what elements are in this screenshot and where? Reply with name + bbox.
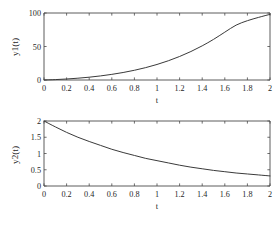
x-tick-label-top-3: 0.6 xyxy=(107,84,117,93)
x-tick-marks-bottom xyxy=(44,121,270,186)
x-tick-label-bot-1: 0.2 xyxy=(61,190,71,199)
x-tick-label-bot-0: 0 xyxy=(42,190,46,199)
x-axis-title-bottom: t xyxy=(156,202,159,211)
y-tick-label-top-2: 100 xyxy=(29,9,41,18)
y-axis-title-top: y1(t) xyxy=(10,38,20,56)
y-tick-label-bot-2: 1 xyxy=(37,150,41,159)
y-axis-title-bottom: y2(t) xyxy=(10,146,20,164)
data-curve-y2 xyxy=(44,121,270,176)
figure-container: 0 50 100 0 0.2 0.4 0.6 0.8 1 1.2 1.4 1.6… xyxy=(0,0,280,226)
x-tick-label-top-9: 1.8 xyxy=(242,84,252,93)
x-axis-title-top: t xyxy=(156,96,159,105)
x-tick-label-top-1: 0.2 xyxy=(61,84,71,93)
y-tick-label-bot-1: 0.5 xyxy=(31,166,41,175)
chart-panel-bottom: 0 0.5 1 1.5 2 0 0.2 0.4 0.6 0.8 1 1.2 1.… xyxy=(0,113,280,226)
y-tick-marks-top xyxy=(44,13,270,80)
y-tick-label-top-0: 0 xyxy=(37,76,41,85)
x-tick-label-top-10: 2 xyxy=(268,84,272,93)
x-tick-label-top-4: 0.8 xyxy=(129,84,139,93)
data-curve-y1 xyxy=(44,14,270,80)
x-tick-label-bot-3: 0.6 xyxy=(107,190,117,199)
x-tick-label-bot-6: 1.2 xyxy=(174,190,184,199)
x-tick-label-bot-10: 2 xyxy=(268,190,272,199)
plot-area-top: 0 50 100 0 0.2 0.4 0.6 0.8 1 1.2 1.4 1.6… xyxy=(0,0,280,113)
axes-frame-bottom xyxy=(44,121,270,186)
x-tick-label-top-8: 1.6 xyxy=(220,84,230,93)
y-tick-label-bot-3: 1.5 xyxy=(31,133,41,142)
y-tick-label-top-1: 50 xyxy=(33,43,41,52)
x-tick-label-top-0: 0 xyxy=(42,84,46,93)
axes-frame-top xyxy=(44,13,270,80)
x-tick-label-bot-5: 1 xyxy=(155,190,159,199)
y-tick-label-bot-0: 0 xyxy=(37,182,41,191)
x-tick-label-bot-7: 1.4 xyxy=(197,190,207,199)
x-tick-label-bot-4: 0.8 xyxy=(129,190,139,199)
x-tick-label-top-2: 0.4 xyxy=(84,84,94,93)
y-tick-label-bot-4: 2 xyxy=(37,117,41,126)
y-tick-marks-bottom xyxy=(44,121,270,186)
chart-panel-top: 0 50 100 0 0.2 0.4 0.6 0.8 1 1.2 1.4 1.6… xyxy=(0,0,280,113)
x-tick-label-top-6: 1.2 xyxy=(174,84,184,93)
x-tick-label-bot-2: 0.4 xyxy=(84,190,94,199)
plot-area-bottom: 0 0.5 1 1.5 2 0 0.2 0.4 0.6 0.8 1 1.2 1.… xyxy=(0,113,280,226)
x-tick-label-bot-9: 1.8 xyxy=(242,190,252,199)
x-tick-label-top-7: 1.4 xyxy=(197,84,207,93)
x-tick-marks-top xyxy=(44,13,270,80)
x-tick-label-bot-8: 1.6 xyxy=(220,190,230,199)
x-tick-label-top-5: 1 xyxy=(155,84,159,93)
